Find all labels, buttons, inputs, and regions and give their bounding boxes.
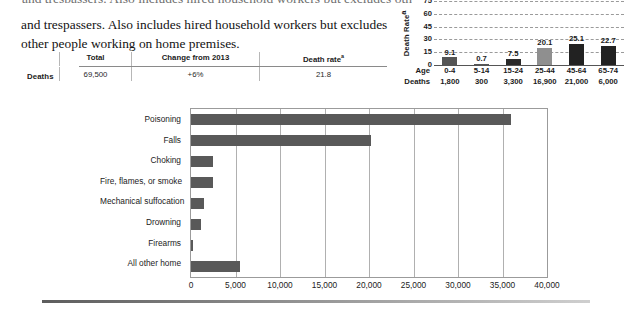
summary-row-label: Deaths: [27, 72, 59, 81]
bar-chart-row: [191, 256, 547, 277]
summary-header-total: Total: [59, 52, 131, 66]
bar-x-tick-15000: 15,000: [312, 280, 337, 290]
bar-chart-plot-area: [190, 108, 548, 278]
deaths-row-values: 1,8003003,30016,90021,0006,000: [434, 77, 624, 86]
age-bar-value-label: 0.7: [476, 54, 487, 63]
age-bar: [474, 64, 489, 65]
age-chart-bars: 9.10.77.520.125.122.7: [434, 1, 624, 65]
age-bar: [537, 48, 552, 65]
bar-chart-row: [191, 172, 547, 193]
bar-category-label: Falls: [100, 130, 186, 151]
age-deaths-value: 3,300: [497, 77, 529, 86]
bar: [191, 177, 213, 188]
bar-x-tick-40000: 40,000: [534, 280, 559, 290]
age-category-label: 65-74: [592, 66, 624, 75]
bar-chart-row: [191, 109, 547, 130]
bar-chart-row: [191, 214, 547, 235]
body-paragraph: and trespassers. Also includes hired hou…: [21, 15, 413, 53]
clipped-top-text: and trespassers. Also includes hired hou…: [22, 0, 412, 3]
age-bar-column: 20.1: [529, 1, 561, 65]
age-deaths-value: 6,000: [592, 77, 624, 86]
bar-x-tick-0: 0: [189, 280, 194, 290]
age-chart-deaths-row: Deaths 1,8003003,30016,90021,0006,000: [400, 77, 636, 86]
summary-table-header-row: Total Change from 2013 Death ratea: [27, 52, 387, 66]
age-bar-value-label: 7.5: [508, 49, 519, 58]
bar-chart-row: [191, 151, 547, 172]
summary-value-change: +6%: [131, 67, 259, 81]
bar-x-tick-30000: 30,000: [445, 280, 470, 290]
bar-category-label: Drowning: [100, 212, 186, 233]
age-y-tick-30: 30: [424, 34, 432, 43]
deaths-row-label: Deaths: [400, 77, 434, 86]
bar: [191, 219, 201, 230]
page-bottom-rule: [42, 300, 590, 303]
age-bar-column: 9.1: [434, 1, 466, 65]
bar-x-tick-20000: 20,000: [356, 280, 381, 290]
age-bar-column: 7.5: [497, 1, 529, 65]
age-y-tick-60: 60: [424, 8, 432, 17]
bar-category-label: Poisoning: [100, 109, 186, 130]
bar-x-tick-25000: 25,000: [401, 280, 426, 290]
bar-chart-row: [191, 235, 547, 256]
bar-chart-x-tick-labels: 05,00010,00015,00020,00025,00030,00035,0…: [190, 280, 548, 294]
age-bar-value-label: 22.7: [601, 36, 616, 45]
bar-category-label: Firearms: [100, 233, 186, 254]
summary-header-death-rate: Death ratea: [259, 52, 387, 66]
age-bar: [442, 57, 457, 65]
age-category-label: 5-14: [466, 66, 498, 75]
bar: [191, 114, 511, 125]
age-row-values: 0-45-1415-2425-4445-6465-74: [434, 66, 624, 75]
age-chart-plot-area: 9.10.77.520.125.122.7: [434, 1, 624, 65]
bar: [191, 261, 240, 272]
age-category-label: 25-44: [529, 66, 561, 75]
age-bar-value-label: 20.1: [537, 38, 552, 47]
summary-header-death-rate-text: Death rate: [303, 55, 341, 64]
age-bar-column: 25.1: [561, 1, 593, 65]
age-y-tick-15: 15: [424, 47, 432, 56]
bar-category-label: Choking: [100, 150, 186, 171]
bar-category-label: All other home: [100, 253, 186, 274]
age-category-label: 0-4: [434, 66, 466, 75]
bar-x-tick-5000: 5,000: [225, 280, 246, 290]
summary-value-death-rate: 21.8: [259, 67, 387, 81]
bar-chart-row: [191, 193, 547, 214]
bar: [191, 135, 371, 146]
age-category-label: 45-64: [561, 66, 593, 75]
bar: [191, 198, 204, 209]
age-bar: [569, 44, 584, 65]
bar-category-label: Fire, flames, or smoke: [100, 171, 186, 192]
age-row-label: Age: [400, 66, 434, 75]
summary-table: Total Change from 2013 Death ratea Death…: [27, 52, 387, 81]
age-deaths-value: 21,000: [561, 77, 593, 86]
bar-category-label: Mechanical suffocation: [100, 191, 186, 212]
age-bar: [601, 46, 616, 65]
age-deaths-value: 300: [466, 77, 498, 86]
age-bar: [506, 59, 521, 65]
summary-value-total: 69,500: [59, 67, 131, 81]
age-bar-column: 22.7: [592, 1, 624, 65]
bar-chart-bars: [191, 109, 547, 277]
age-bar-value-label: 25.1: [569, 34, 584, 43]
age-deaths-value: 1,800: [434, 77, 466, 86]
age-death-rate-chart: Death Ratea 01530456075 9.10.77.520.125.…: [400, 0, 636, 86]
bar-x-tick-35000: 35,000: [490, 280, 515, 290]
age-chart-age-row: Age 0-45-1415-2425-4445-6465-74: [400, 66, 636, 75]
age-y-tick-75: 75: [424, 0, 432, 5]
summary-header-change: Change from 2013: [131, 52, 259, 66]
bar: [191, 156, 213, 167]
age-deaths-value: 16,900: [529, 77, 561, 86]
age-chart-y-axis-label-superscript: a: [399, 10, 408, 14]
summary-table-value-row: Deaths 69,500 +6% 21.8: [27, 67, 387, 81]
bar: [191, 240, 193, 251]
bar-chart-row: [191, 130, 547, 151]
summary-header-death-rate-superscript: a: [341, 53, 344, 59]
age-bar-value-label: 9.1: [444, 48, 455, 57]
age-y-tick-45: 45: [424, 21, 432, 30]
age-chart-y-tick-labels: 01530456075: [410, 0, 432, 64]
bar-chart-category-labels: PoisoningFallsChokingFire, flames, or sm…: [100, 109, 186, 274]
bar-x-tick-10000: 10,000: [267, 280, 292, 290]
age-bar-column: 0.7: [466, 1, 498, 65]
home-deaths-bar-chart: PoisoningFallsChokingFire, flames, or sm…: [0, 104, 636, 284]
age-category-label: 15-24: [497, 66, 529, 75]
